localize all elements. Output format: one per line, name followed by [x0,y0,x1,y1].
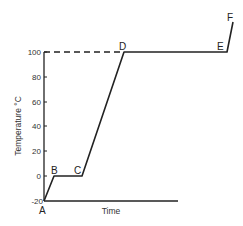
point-label-d: D [119,41,126,52]
point-label-e: E [217,41,224,52]
y-axis-title: Temperature °C [13,96,23,156]
y-axis-title-group: Temperature °C [13,96,23,156]
heating-curve-line [44,22,233,201]
ytick-60: 60 [32,98,41,107]
point-label-a: A [39,205,46,216]
x-axis-title: Time [102,206,121,216]
ytick-20: 20 [32,147,41,156]
ytick-40: 40 [32,122,41,131]
ytick-80: 80 [32,73,41,82]
point-label-f: F [227,12,233,23]
point-label-b: B [51,165,58,176]
ytick-0: 0 [37,172,42,181]
heating-curve-chart: 100 80 60 40 20 0 -20 A B C D E F Time T… [0,0,243,226]
ytick-100: 100 [28,48,42,57]
point-label-c: C [74,165,81,176]
